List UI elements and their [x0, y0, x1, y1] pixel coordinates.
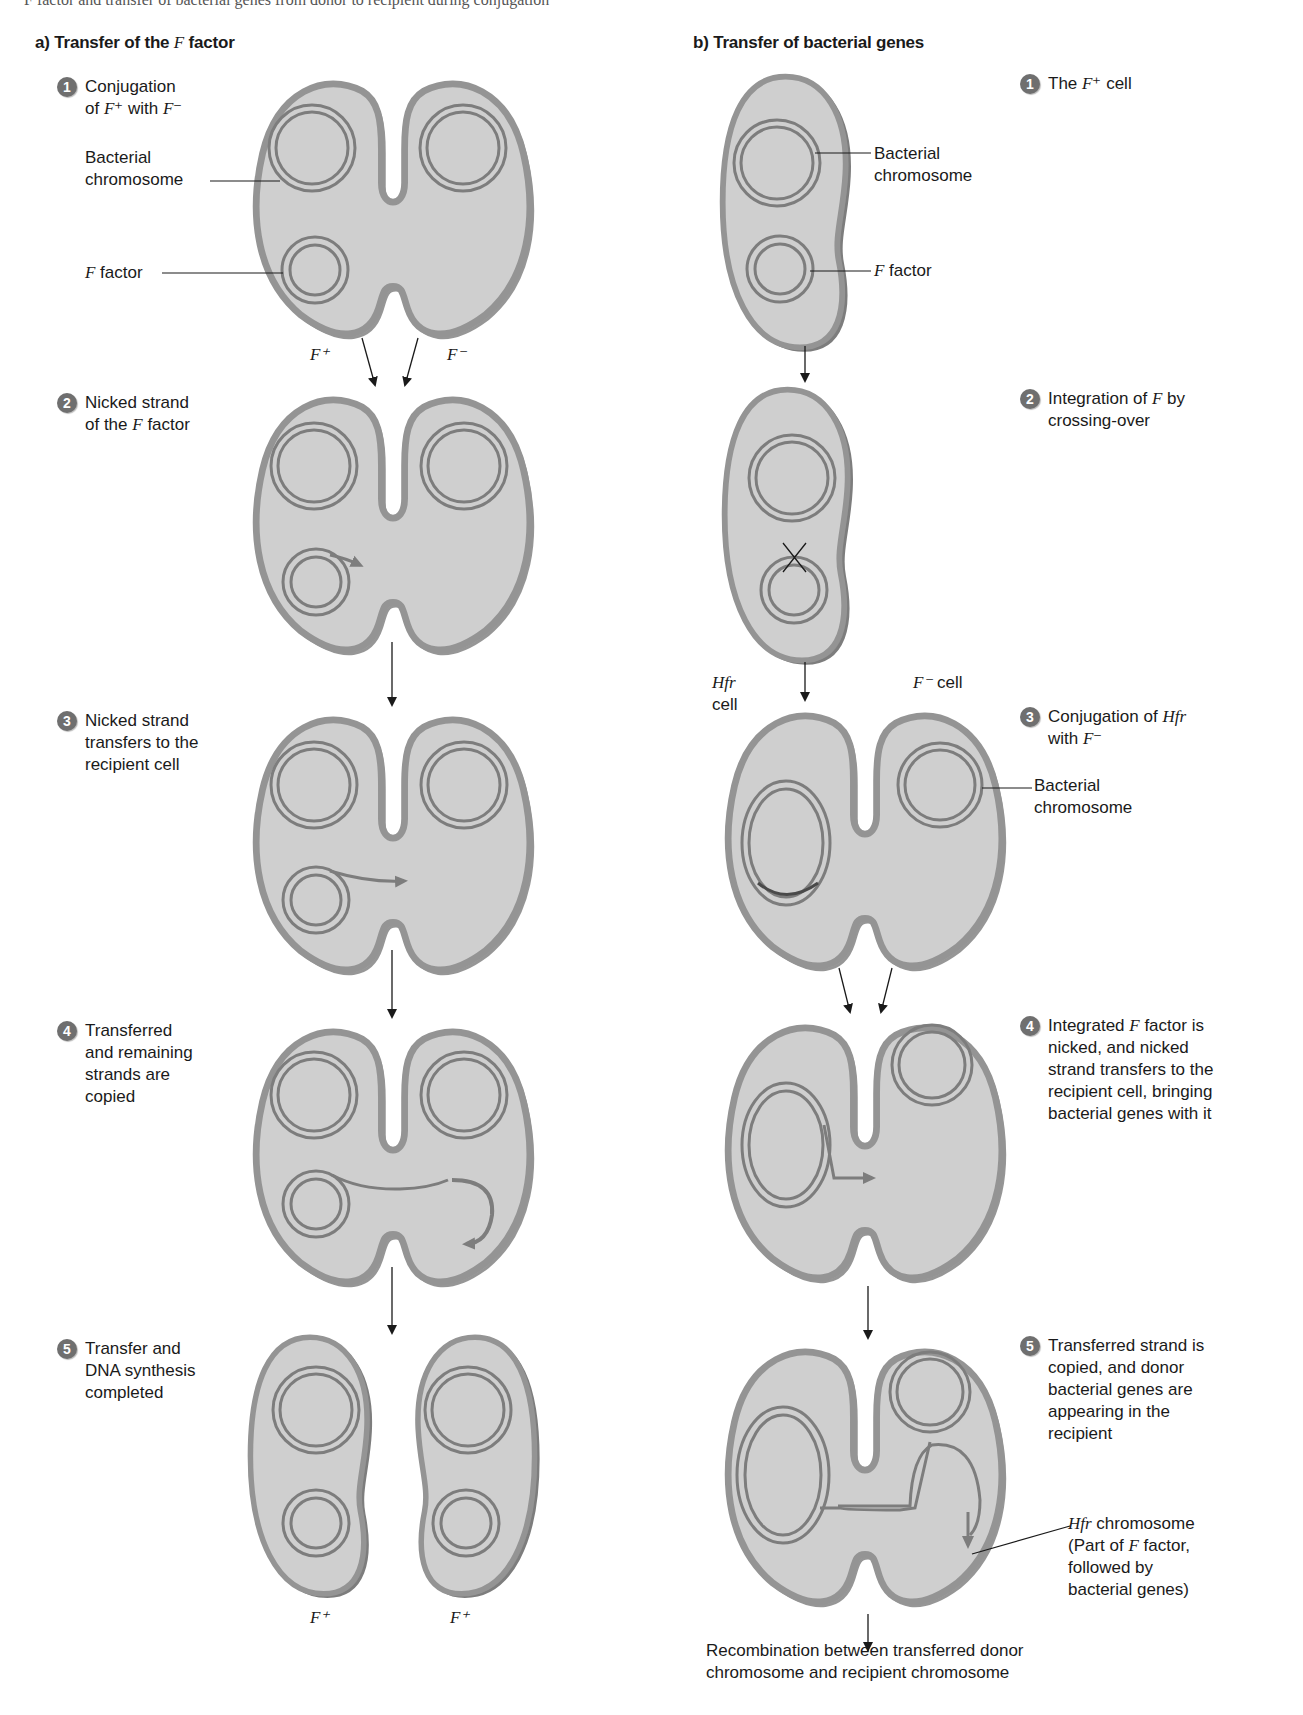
panel-a-step3-cells — [256, 720, 532, 974]
panel-a-step4-cells — [256, 1032, 532, 1286]
panel-a-step-2: 2 Nicked strand of the F factor — [57, 392, 190, 436]
step-text: Integrated F factor is nicked, and nicke… — [1048, 1015, 1213, 1125]
panel-b-step1-cell — [723, 77, 850, 351]
cell-label-f-plus-right: F⁺ — [450, 1607, 469, 1628]
panel-a-step5-cells — [250, 1337, 538, 1596]
panel-b-step4-cells — [728, 1025, 1004, 1282]
panel-a-step2-cells — [256, 400, 532, 654]
panel-a-step-1: 1 Conjugation of F⁺ with F⁻ — [57, 76, 182, 120]
step-number-badge: 5 — [1020, 1336, 1040, 1356]
label-f-factor: F factor — [85, 262, 143, 284]
cell-label-f-plus: F⁺ — [310, 344, 329, 365]
step-text: Transferred strand is copied, and donor … — [1048, 1335, 1204, 1445]
panel-b-step-1: 1 The F⁺ cell — [1020, 73, 1132, 95]
step-text: Transferred and remaining strands are co… — [85, 1020, 193, 1108]
step-number-badge: 3 — [1020, 707, 1040, 727]
label-hfr-chromosome: Hfr chromosome (Part of F factor, follow… — [1068, 1513, 1195, 1601]
label-bacterial-chromosome-b1: Bacterial chromosome — [874, 143, 972, 187]
step-text: Transfer and DNA synthesis completed — [85, 1338, 196, 1404]
label-bacterial-chromosome: Bacterial chromosome — [85, 147, 183, 191]
panel-b-step-4: 4 Integrated F factor is nicked, and nic… — [1020, 1015, 1213, 1125]
label-bacterial-chromosome-b3: Bacterial chromosome — [1034, 775, 1132, 819]
conjugation-diagram — [0, 0, 1303, 1715]
step-number-badge: 1 — [1020, 74, 1040, 94]
panel-b-step-5: 5 Transferred strand is copied, and dono… — [1020, 1335, 1204, 1445]
step-number-badge: 1 — [57, 77, 77, 97]
step-text: Conjugation of F⁺ with F⁻ — [85, 76, 182, 120]
cell-label-f-minus: F⁻ — [447, 344, 466, 365]
panel-b-step-2: 2 Integration of F by crossing-over — [1020, 388, 1185, 432]
cell-label-f-plus-left: F⁺ — [310, 1607, 329, 1628]
step-text: The F⁺ cell — [1048, 73, 1132, 95]
panel-a-step-3: 3 Nicked strand transfers to the recipie… — [57, 710, 198, 776]
step-number-badge: 4 — [1020, 1016, 1040, 1036]
final-outcome-text: Recombination between transferred donor … — [706, 1640, 1024, 1684]
panel-a-step1-cells — [256, 84, 532, 338]
step-text: Conjugation of Hfr with F⁻ — [1048, 706, 1186, 750]
step-text: Integration of F by crossing-over — [1048, 388, 1185, 432]
step-number-badge: 3 — [57, 711, 77, 731]
label-f-minus-cell: F⁻ cell — [913, 672, 963, 694]
step-number-badge: 5 — [57, 1339, 77, 1359]
panel-a-step-5: 5 Transfer and DNA synthesis completed — [57, 1338, 196, 1404]
step-number-badge: 2 — [1020, 389, 1040, 409]
panel-b-step5-cells — [728, 1352, 1004, 1606]
panel-b-step3-cells — [728, 716, 1004, 970]
step-number-badge: 4 — [57, 1021, 77, 1041]
panel-a-step-4: 4 Transferred and remaining strands are … — [57, 1020, 193, 1108]
label-hfr-cell: Hfrcell — [712, 672, 738, 716]
panel-b-step-3: 3 Conjugation of Hfr with F⁻ — [1020, 706, 1186, 750]
panel-b-step2-cell — [725, 390, 852, 664]
step-number-badge: 2 — [57, 393, 77, 413]
label-f-factor-b1: F factor — [874, 260, 932, 282]
step-text: Nicked strand transfers to the recipient… — [85, 710, 198, 776]
step-text: Nicked strand of the F factor — [85, 392, 190, 436]
